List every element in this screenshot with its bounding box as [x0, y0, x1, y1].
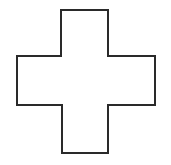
- cross-figure: [0, 0, 171, 165]
- diagram-canvas: [0, 0, 171, 165]
